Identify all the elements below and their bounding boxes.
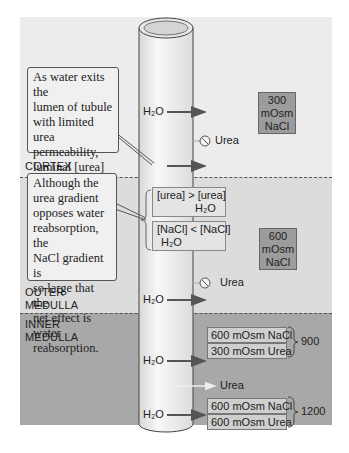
nacl-gradient-text: [NaCl] < [NaCl] (157, 223, 221, 236)
outer-medulla-osm-box: 600 mOsm NaCl (259, 228, 297, 270)
osm-solute: NaCl (259, 120, 295, 133)
h2o-label-inner-2: H₂O (143, 408, 164, 420)
osm-solute: NaCl (260, 256, 296, 269)
inner-total-900: 900 (301, 335, 319, 347)
urea-label-outer: Urea (220, 276, 244, 288)
osm-unit: mOsm (259, 107, 295, 120)
osm-unit: mOsm (260, 243, 296, 256)
callout-top-line: with limited urea (33, 115, 113, 145)
inner-total-1200: 1200 (301, 405, 325, 417)
gradient-callout: Although the urea gradient opposes water… (27, 173, 117, 281)
h2o-label-outer: H₂O (143, 293, 164, 305)
callout-mid-line: NaCl gradient is (33, 251, 111, 281)
urea-label-inner: Urea (220, 379, 244, 391)
callout-mid-line: reabsorption, the (33, 221, 111, 251)
h2o-label-cortex-1: H₂O (143, 105, 164, 117)
nacl-gradient-box: [NaCl] < [NaCl] H₂O (152, 221, 226, 251)
callout-mid-line: reabsorption. (33, 341, 111, 356)
osm-value: 600 (260, 230, 296, 243)
osm-value: 300 (259, 94, 295, 107)
urea-h2o-label: H₂O (157, 202, 221, 215)
h2o-label-inner-1: H₂O (143, 354, 164, 366)
callout-top-line: As water exits the (33, 70, 113, 100)
nacl-h2o-label: H₂O (157, 236, 221, 249)
cortex-osm-box: 300 mOsm NaCl (258, 92, 296, 134)
water-exit-callout: As water exits the lumen of tubule with … (27, 67, 119, 153)
inner-urea-box-1: 300 mOsm Urea (207, 343, 287, 359)
callout-mid-line: urea gradient (33, 191, 111, 206)
callout-mid-line: Although the (33, 176, 111, 191)
callout-mid-line: so large that the (33, 281, 111, 311)
urea-gradient-text: [urea] > [urea] (157, 189, 221, 202)
urea-label-cortex: Urea (215, 134, 239, 146)
callout-mid-line: opposes water (33, 206, 111, 221)
urea-gradient-box: [urea] > [urea] H₂O (152, 187, 226, 217)
inner-nacl-box-1: 600 mOsm NaCl (207, 327, 287, 343)
callout-top-line: lumen of tubule (33, 100, 113, 115)
inner-urea-box-2: 600 mOsm Urea (207, 414, 287, 430)
callout-mid-line: net effect is water (33, 311, 111, 341)
callout-top-line: permeability, (33, 145, 113, 160)
inner-nacl-box-2: 600 mOsm NaCl (207, 398, 287, 414)
